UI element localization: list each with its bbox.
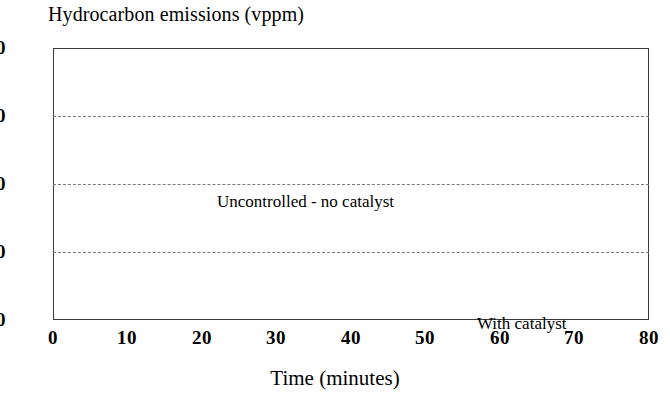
x-axis-tick-label: 10 [97, 327, 157, 349]
chart-figure: Hydrocarbon emissions (vppm) 80 60 40 20… [0, 0, 670, 410]
series-annotation-with-catalyst: With catalyst [477, 314, 566, 334]
x-axis-tick-label: 50 [395, 327, 455, 349]
x-axis-tick-label: 0 [23, 327, 83, 349]
gridline-40 [53, 184, 649, 185]
y-axis-tick-label: 0 [0, 309, 6, 331]
x-axis-tick-label: 20 [172, 327, 232, 349]
chart-title: Hydrocarbon emissions (vppm) [48, 3, 304, 26]
gridline-60 [53, 116, 649, 117]
gridline-20 [53, 252, 649, 253]
x-axis-tick-label: 80 [619, 327, 670, 349]
y-axis-tick-label: 40 [0, 173, 6, 195]
y-axis-tick-label: 20 [0, 241, 6, 263]
plot-area: Uncontrolled - no catalyst With catalyst [53, 48, 649, 320]
x-axis-tick-label: 40 [321, 327, 381, 349]
y-axis-tick-label: 80 [0, 37, 6, 59]
x-axis-tick-label: 30 [246, 327, 306, 349]
series-annotation-uncontrolled: Uncontrolled - no catalyst [217, 192, 394, 212]
x-axis-title: Time (minutes) [0, 366, 670, 391]
y-axis-tick-label: 60 [0, 105, 6, 127]
